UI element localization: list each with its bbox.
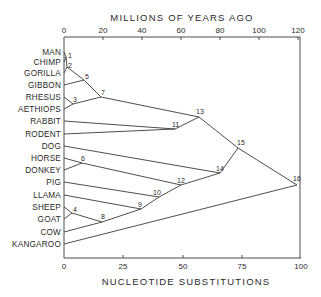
top-tick-label: 0 xyxy=(62,26,67,35)
node-label-6: 6 xyxy=(81,155,85,162)
node-labels: 1 2 5 3 7 11 13 6 4 8 9 10 12 14 15 16 xyxy=(68,52,301,220)
top-tick-label: 120 xyxy=(291,26,305,35)
leaf-label-rabbit: RABBIT xyxy=(30,117,61,126)
plot-frame xyxy=(64,37,301,258)
node-label-12: 12 xyxy=(177,177,185,184)
bottom-axis-title: NUCLEOTIDE SUBSTITUTIONS xyxy=(102,276,271,287)
node-label-1: 1 xyxy=(68,52,72,59)
leaf-label-horse: HORSE xyxy=(31,154,61,163)
node-label-13: 13 xyxy=(196,108,204,115)
leaf-label-rhesus: RHESUS xyxy=(26,93,62,102)
bottom-tick-label: 0 xyxy=(62,262,67,271)
top-tick-label: 60 xyxy=(177,26,186,35)
leaf-label-dog: DOG xyxy=(42,142,61,151)
top-tick-label: 20 xyxy=(99,26,108,35)
node-label-9: 9 xyxy=(138,201,142,208)
leaf-label-chimp: CHIMP xyxy=(34,58,62,67)
node-label-11: 11 xyxy=(172,121,179,128)
bottom-tick-label: 75 xyxy=(238,262,247,271)
leaf-label-goat: GOAT xyxy=(38,215,61,224)
bottom-tick-label: 50 xyxy=(179,262,188,271)
tree-branches xyxy=(64,52,297,244)
top-tick-label: 40 xyxy=(138,26,147,35)
node-label-7: 7 xyxy=(101,89,105,96)
node-label-2: 2 xyxy=(68,62,72,69)
leaf-label-kangaroo: KANGAROO xyxy=(12,240,61,249)
leaf-label-rodent: RODENT xyxy=(25,130,61,139)
phylogenetic-tree-figure: MILLIONS OF YEARS AGO 0 20 40 60 80 100 … xyxy=(0,0,321,297)
node-label-15: 15 xyxy=(237,139,245,146)
bottom-axis-ticks: 0 25 50 75 100 xyxy=(62,255,308,271)
leaf-labels: MAN CHIMP GORILLA GIBBON RHESUS AETHIOPS… xyxy=(12,48,61,249)
leaf-label-sheep: SHEEP xyxy=(32,203,61,212)
top-tick-label: 80 xyxy=(216,26,225,35)
node-label-5: 5 xyxy=(85,73,89,80)
node-label-14: 14 xyxy=(216,165,224,172)
leaf-label-man: MAN xyxy=(42,48,61,57)
leaf-label-pig: PIG xyxy=(46,178,61,187)
leaf-label-gibbon: GIBBON xyxy=(28,81,61,90)
node-label-4: 4 xyxy=(73,206,77,213)
node-label-10: 10 xyxy=(153,189,161,196)
node-label-3: 3 xyxy=(73,96,77,103)
leaf-label-gorilla: GORILLA xyxy=(24,69,61,78)
leaf-label-aethiops: AETHIOPS xyxy=(18,105,61,114)
leaf-label-llama: LLAMA xyxy=(33,191,61,200)
node-label-16: 16 xyxy=(293,175,301,182)
bottom-tick-label: 100 xyxy=(294,262,308,271)
top-tick-label: 100 xyxy=(252,26,266,35)
bottom-tick-label: 25 xyxy=(119,262,128,271)
leaf-label-donkey: DONKEY xyxy=(25,166,61,175)
top-axis-ticks: 0 20 40 60 80 100 120 xyxy=(62,26,305,40)
leaf-label-cow: COW xyxy=(40,228,61,237)
top-axis-title: MILLIONS OF YEARS AGO xyxy=(110,12,253,23)
node-label-8: 8 xyxy=(101,213,105,220)
